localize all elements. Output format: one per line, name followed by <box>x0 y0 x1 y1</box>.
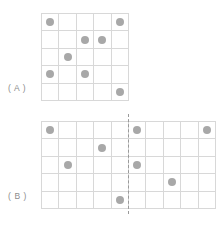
panel-a-grid <box>41 13 129 101</box>
grid-cell <box>199 157 216 174</box>
grid-cell <box>94 192 111 209</box>
grid-cell <box>129 139 146 156</box>
grid-cell <box>94 49 111 66</box>
grid-dot <box>81 70 89 78</box>
grid-cell <box>77 157 94 174</box>
grid-cell <box>77 66 94 83</box>
grid-dot <box>168 178 176 186</box>
grid-cell <box>59 31 76 48</box>
grid-cell <box>112 174 129 191</box>
grid-dot <box>203 126 211 134</box>
grid-cell <box>181 174 198 191</box>
grid-cell <box>164 139 181 156</box>
grid-cell <box>42 192 59 209</box>
grid-dot <box>64 53 72 61</box>
grid-cell <box>59 14 76 31</box>
grid-cell <box>42 122 59 139</box>
grid-cell <box>42 66 59 83</box>
grid-cell <box>112 49 129 66</box>
grid-cell <box>199 192 216 209</box>
grid-dot <box>46 18 54 26</box>
grid-cell <box>94 14 111 31</box>
grid-dot <box>116 18 124 26</box>
grid-cell <box>94 122 111 139</box>
grid-cell <box>59 174 76 191</box>
panel-b-label: ( B ) <box>8 191 27 201</box>
grid-dot <box>98 36 106 44</box>
grid-dot <box>64 161 72 169</box>
grid-dot <box>46 126 54 134</box>
grid-cell <box>181 157 198 174</box>
grid-cell <box>112 14 129 31</box>
grid-cell <box>94 157 111 174</box>
grid-cell <box>94 174 111 191</box>
grid-cell <box>112 31 129 48</box>
grid-cell <box>42 84 59 101</box>
grid-cell <box>59 49 76 66</box>
grid-cell <box>181 192 198 209</box>
mirror-axis-dashed-line <box>128 114 129 214</box>
grid-cell <box>42 14 59 31</box>
grid-cell <box>59 122 76 139</box>
grid-cell <box>77 14 94 31</box>
grid-cell <box>164 192 181 209</box>
grid-cell <box>164 174 181 191</box>
grid-cell <box>59 157 76 174</box>
grid-cell <box>146 139 163 156</box>
grid-cell <box>77 84 94 101</box>
grid-cell <box>146 174 163 191</box>
grid-cell <box>59 84 76 101</box>
grid-cell <box>77 122 94 139</box>
grid-cell <box>199 122 216 139</box>
grid-cell <box>94 84 111 101</box>
grid-cell <box>112 157 129 174</box>
grid-cell <box>42 31 59 48</box>
grid-cell <box>129 192 146 209</box>
grid-cell <box>77 49 94 66</box>
grid-cell <box>146 122 163 139</box>
grid-cell <box>112 139 129 156</box>
grid-dot <box>98 144 106 152</box>
grid-cell <box>77 139 94 156</box>
grid-cell <box>59 192 76 209</box>
grid-cell <box>129 122 146 139</box>
grid-dot <box>116 196 124 204</box>
grid-cell <box>77 174 94 191</box>
grid-cell <box>59 139 76 156</box>
grid-cell <box>94 31 111 48</box>
grid-dot <box>133 161 141 169</box>
grid-cell <box>77 31 94 48</box>
grid-cell <box>94 139 111 156</box>
grid-dot <box>46 70 54 78</box>
grid-cell <box>42 157 59 174</box>
grid-cell <box>112 84 129 101</box>
grid-cell <box>164 157 181 174</box>
grid-cell <box>146 192 163 209</box>
grid-cell <box>59 66 76 83</box>
grid-cell <box>77 192 94 209</box>
grid-cell <box>146 157 163 174</box>
grid-cell <box>112 66 129 83</box>
grid-cell <box>129 174 146 191</box>
grid-cell <box>181 139 198 156</box>
panel-a-label: ( A ) <box>8 83 26 93</box>
grid-cell <box>112 122 129 139</box>
grid-dot <box>81 36 89 44</box>
grid-cell <box>94 66 111 83</box>
grid-dot <box>133 126 141 134</box>
grid-cell <box>199 174 216 191</box>
grid-dot <box>116 88 124 96</box>
grid-cell <box>42 49 59 66</box>
grid-cell <box>42 139 59 156</box>
grid-cell <box>199 139 216 156</box>
grid-cell <box>129 157 146 174</box>
grid-cell <box>42 174 59 191</box>
grid-cell <box>164 122 181 139</box>
grid-cell <box>181 122 198 139</box>
grid-cell <box>112 192 129 209</box>
